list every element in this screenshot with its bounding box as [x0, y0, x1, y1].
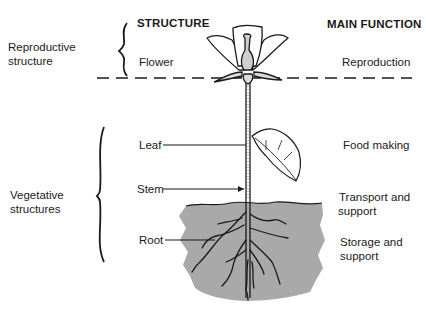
function-label-leaf: Food making: [343, 138, 409, 152]
function-label-root-line2: support: [340, 249, 378, 263]
flower-drawing: [207, 26, 288, 84]
reproductive-group-label-line1: Reproductive: [8, 40, 76, 54]
vegetative-group-label-line1: Vegetative: [10, 188, 64, 202]
structure-label-flower: Flower: [139, 55, 174, 69]
structure-label-stem: Stem: [137, 182, 164, 196]
function-label-stem-line1: Transport and: [339, 190, 410, 204]
function-label-root-line1: Storage and: [340, 235, 403, 249]
main-function-column-header: MAIN FUNCTION: [327, 17, 422, 31]
structure-label-root: Root: [139, 233, 163, 247]
function-label-stem-line2: support: [338, 204, 376, 218]
leaf-drawing: [252, 129, 300, 181]
vegetative-group-label-line2: structures: [10, 202, 61, 216]
structure-label-leaf: Leaf: [139, 138, 161, 152]
structure-column-header: STRUCTURE: [137, 16, 210, 30]
vegetative-brace: [97, 127, 104, 262]
stem-arrow-head: [238, 186, 244, 192]
reproductive-group-label-line2: structure: [8, 54, 53, 68]
soil-region: [179, 202, 325, 301]
reproductive-brace: [119, 23, 127, 76]
function-label-flower: Reproduction: [342, 55, 410, 69]
